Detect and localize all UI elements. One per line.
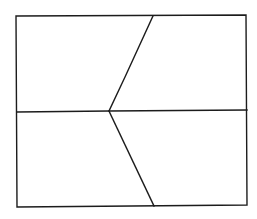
lower-diagonal-line xyxy=(109,111,154,206)
upper-diagonal-line xyxy=(109,16,153,111)
diagram-canvas xyxy=(0,0,257,219)
horizontal-divider xyxy=(17,110,247,112)
